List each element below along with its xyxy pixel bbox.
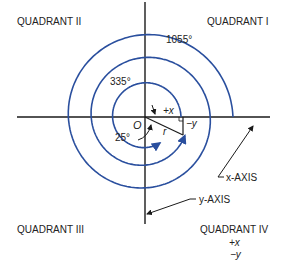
spiral-curve — [68, 35, 233, 188]
angle-25-label: 25° — [115, 133, 130, 143]
plus-x-arrow — [152, 105, 155, 114]
quadrant-3-label: QUADRANT III — [17, 225, 84, 235]
minus-y-label: −y — [186, 119, 197, 129]
quadrant-4-sign-x: +x — [229, 238, 240, 248]
x-axis-label: x-AXIS — [226, 173, 257, 183]
angle-1055-label: 1055° — [166, 35, 192, 45]
x-axis-callout-arrow — [218, 126, 253, 177]
quadrant-4-sign-y: −y — [230, 250, 241, 260]
quadrant-1-label: QUADRANT I — [207, 17, 269, 27]
radius-label: r — [163, 127, 166, 137]
y-axis-callout-arrow — [147, 199, 196, 214]
angle-335-label: 335° — [110, 77, 131, 87]
quadrant-2-label: QUADRANT II — [17, 17, 81, 27]
plus-x-label: +x — [163, 106, 174, 116]
diagram-canvas: QUADRANT II QUADRANT I QUADRANT III QUAD… — [0, 0, 287, 271]
y-axis-label: y-AXIS — [199, 195, 230, 205]
origin-label: O — [133, 120, 142, 131]
quadrant-4-label: QUADRANT IV — [200, 225, 268, 235]
